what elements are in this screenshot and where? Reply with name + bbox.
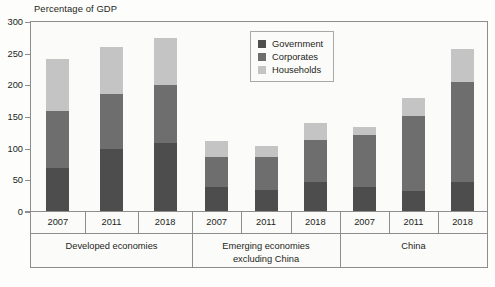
group-label-line: Emerging economies xyxy=(192,240,340,253)
chart-legend: GovernmentCorporatesHouseholds xyxy=(250,31,334,82)
legend-label: Households xyxy=(272,65,321,75)
year-label: 2011 xyxy=(241,212,290,233)
bar-stack xyxy=(154,38,177,212)
bar-segment-corporates xyxy=(304,140,327,182)
legend-swatch-icon xyxy=(258,66,266,74)
group-label-line: China xyxy=(340,240,487,253)
group-divider xyxy=(340,212,341,267)
year-divider xyxy=(291,212,292,233)
y-axis-tick-mark xyxy=(25,149,30,150)
bar-segment-government xyxy=(46,168,69,212)
legend-swatch-icon xyxy=(258,40,266,48)
legend-label: Corporates xyxy=(272,52,318,62)
bar-segment-government xyxy=(402,191,425,212)
bar-stack xyxy=(451,49,474,212)
bar-stack xyxy=(304,123,327,212)
chart-figure: Percentage of GDP 050100150200250300 200… xyxy=(0,0,495,287)
year-divider xyxy=(138,212,139,233)
legend-label: Government xyxy=(272,39,323,49)
year-label: 2007 xyxy=(192,212,241,233)
group-label: China xyxy=(340,234,487,267)
y-axis-tick-mark xyxy=(25,212,30,213)
y-axis-tick-mark xyxy=(25,180,30,181)
y-axis-tick-label: 50 xyxy=(13,175,23,185)
bar-segment-corporates xyxy=(46,111,69,168)
bar-segment-corporates xyxy=(255,157,278,190)
bar-segment-government xyxy=(205,187,228,212)
bar-segment-government xyxy=(353,187,376,212)
year-label: 2018 xyxy=(138,212,192,233)
group-divider xyxy=(192,212,193,267)
legend-swatch-icon xyxy=(258,53,266,61)
bar-segment-households xyxy=(154,38,177,86)
bar-segment-households xyxy=(255,146,278,157)
bar-segment-corporates xyxy=(100,94,123,148)
group-label: Emerging economiesexcluding China xyxy=(192,234,340,267)
legend-item: Government xyxy=(258,37,323,50)
bar-segment-households xyxy=(46,59,69,111)
year-label: 2007 xyxy=(31,212,85,233)
year-divider xyxy=(241,212,242,233)
bar-segment-government xyxy=(255,190,278,212)
y-axis-tick-mark xyxy=(25,22,30,23)
year-label: 2011 xyxy=(389,212,438,233)
bar-segment-government xyxy=(100,149,123,212)
bar-stack xyxy=(46,59,69,212)
y-axis-tick-mark xyxy=(25,54,30,55)
legend-item: Households xyxy=(258,63,323,76)
y-axis-tick-label: 150 xyxy=(7,112,23,122)
bar-segment-corporates xyxy=(353,135,376,187)
y-axis-tick-label: 200 xyxy=(7,80,23,90)
bar-stack xyxy=(353,127,376,213)
bar-segment-households xyxy=(205,141,228,157)
y-axis-tick-label: 0 xyxy=(18,207,23,217)
year-label: 2011 xyxy=(85,212,139,233)
bar-segment-corporates xyxy=(205,157,228,187)
category-label-band: 200720112018Developed economies200720112… xyxy=(31,212,487,267)
y-axis-tick-mark xyxy=(25,85,30,86)
year-label: 2007 xyxy=(340,212,389,233)
bar-segment-corporates xyxy=(154,85,177,143)
year-divider xyxy=(85,212,86,233)
bar-segment-households xyxy=(353,127,376,135)
chart-title: Percentage of GDP xyxy=(34,3,117,14)
bar-segment-government xyxy=(154,143,177,212)
bar-stack xyxy=(402,98,425,212)
y-axis: 050100150200250300 xyxy=(0,0,30,212)
y-axis-tick-label: 100 xyxy=(7,144,23,154)
y-axis-tick-mark xyxy=(25,117,30,118)
bar-segment-households xyxy=(304,123,327,140)
group-label-line: Developed economies xyxy=(31,240,192,253)
bar-stack xyxy=(205,141,228,212)
bar-segment-corporates xyxy=(451,82,474,183)
year-label: 2018 xyxy=(438,212,487,233)
bar-segment-households xyxy=(451,49,474,82)
bar-segment-households xyxy=(402,98,425,116)
y-axis-tick-label: 300 xyxy=(7,17,23,27)
year-divider xyxy=(438,212,439,233)
y-axis-tick-label: 250 xyxy=(7,49,23,59)
group-label: Developed economies xyxy=(31,234,192,267)
bar-stack xyxy=(255,146,278,212)
bar-segment-government xyxy=(304,182,327,212)
group-label-line: excluding China xyxy=(192,253,340,266)
bar-segment-government xyxy=(451,182,474,212)
bar-segment-corporates xyxy=(402,116,425,191)
bar-stack xyxy=(100,47,123,212)
bar-segment-households xyxy=(100,47,123,95)
year-label: 2018 xyxy=(291,212,340,233)
legend-item: Corporates xyxy=(258,50,323,63)
year-divider xyxy=(389,212,390,233)
